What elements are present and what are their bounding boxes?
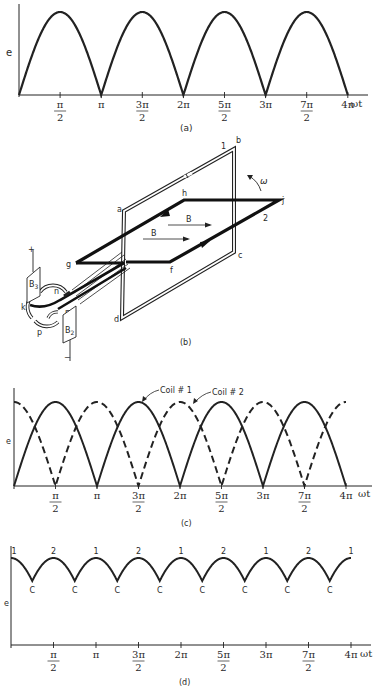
brush-b3 — [27, 250, 40, 303]
coil-2 — [76, 200, 279, 263]
coil-2-curve — [14, 402, 346, 486]
tick-label-denominator: 2 — [139, 112, 145, 123]
commutation-label: C — [327, 586, 333, 595]
label-coil-2: 2 — [263, 214, 268, 223]
x-ticks: π2π3π22π5π23π7π24π — [54, 92, 355, 123]
tick-label: 7π — [298, 490, 311, 501]
peak-label: 2 — [51, 547, 56, 556]
tick-label: 3π — [132, 490, 145, 501]
x-ticks: π2π3π22π5π23π7π24π — [50, 483, 353, 514]
panel-label: (c) — [181, 519, 192, 528]
figure: e π2π3π22π5π23π7π24π ωt (a) a b c d 1 h — [0, 0, 390, 698]
peak-label: 2 — [221, 547, 226, 556]
commutation-label: C — [29, 586, 35, 595]
x-ticks: π2π3π22π5π23π7π24π — [48, 642, 358, 673]
panel-a: e π2π3π22π5π23π7π24π ωt (a) — [6, 4, 368, 133]
tick-label: 7π — [302, 649, 315, 660]
tick-label: 3π — [257, 490, 270, 501]
field-label-b: B — [151, 229, 157, 238]
tick-label-denominator: 2 — [305, 662, 311, 673]
label-p: p — [37, 328, 42, 337]
commutation-label: C — [72, 586, 78, 595]
tick-label: 3π — [136, 99, 149, 110]
field-label-b: B — [186, 215, 192, 224]
tick-label: π — [94, 490, 101, 501]
peak-label: 1 — [178, 547, 183, 556]
tick-label: 5π — [217, 649, 230, 660]
peak-label: 2 — [306, 547, 311, 556]
x-axis-label: ωt — [358, 488, 370, 499]
tick-label: π — [57, 99, 64, 110]
tick-label-denominator: 2 — [218, 503, 224, 514]
tick-label-denominator: 2 — [135, 503, 141, 514]
tick-label: π — [93, 649, 100, 660]
y-axis-label: e — [6, 47, 12, 58]
figure-svg: e π2π3π22π5π23π7π24π ωt (a) a b c d 1 h — [0, 0, 390, 698]
panel-c: e π2π3π22π5π23π7π24π ωt Coil # 1 Coil # … — [6, 386, 372, 528]
panel-b-generator-diagram: a b c d 1 h j f g 2 B B ω — [21, 136, 284, 362]
label-b: b — [236, 136, 241, 145]
panel-d: e 1C2C1C2C1C2C1C2C1 π2π3π22π5π23π7π24π ω… — [4, 546, 372, 687]
tick-label: 3π — [132, 649, 145, 660]
peak-label: 1 — [348, 547, 353, 556]
tick-label-denominator: 2 — [52, 503, 58, 514]
panel-label: (a) — [180, 123, 193, 133]
commutation-label: C — [242, 586, 248, 595]
tick-label: 3π — [259, 99, 272, 110]
tick-label: 7π — [300, 99, 313, 110]
label-j: j — [281, 196, 284, 205]
legend-arrowhead-icon — [193, 398, 198, 404]
y-axis-label: e — [4, 599, 9, 608]
panel-label: (d) — [179, 678, 190, 687]
commutation-label: C — [114, 586, 120, 595]
tick-label: 2π — [177, 99, 190, 110]
label-h: h — [182, 189, 187, 198]
tick-label-denominator: 2 — [50, 662, 56, 673]
peak-label: 2 — [136, 547, 141, 556]
tick-label: π — [52, 490, 59, 501]
label-k: k — [21, 303, 26, 312]
label-d: d — [114, 315, 119, 324]
tick-label-denominator: 2 — [220, 662, 226, 673]
tick-label: 5π — [218, 99, 231, 110]
commutation-label: C — [199, 586, 205, 595]
tick-label: π — [50, 649, 57, 660]
tick-label-denominator: 2 — [57, 112, 63, 123]
legend-coil-1: Coil # 1 — [160, 386, 192, 395]
y-axis-label: e — [6, 437, 11, 446]
legend-coil-2: Coil # 2 — [212, 388, 244, 397]
peak-label: 1 — [93, 547, 98, 556]
tick-label-denominator: 2 — [135, 662, 141, 673]
tick-label: 3π — [260, 649, 273, 660]
label-coil-1: 1 — [221, 142, 226, 151]
tick-label: 5π — [215, 490, 228, 501]
tick-label: 4π — [345, 649, 358, 660]
peak-label: 1 — [11, 547, 16, 556]
tick-label: 2π — [175, 649, 188, 660]
commutation-label: C — [157, 586, 163, 595]
polarity-minus: − — [64, 353, 71, 362]
label-g: g — [66, 260, 71, 269]
polarity-plus: + — [28, 245, 35, 254]
coil-1-curve — [14, 402, 346, 486]
x-axis-label: ωt — [350, 98, 362, 109]
omega-label: ω — [260, 176, 268, 186]
label-a: a — [117, 205, 122, 214]
tick-label-denominator: 2 — [221, 112, 227, 123]
tick-label: 4π — [340, 490, 353, 501]
tick-label-denominator: 2 — [304, 112, 310, 123]
peak-trough-labels: 1C2C1C2C1C2C1C2C1 — [11, 547, 353, 595]
resultant-emf-curve — [11, 558, 351, 581]
tick-label: π — [98, 99, 105, 110]
panel-label: (b) — [180, 338, 191, 347]
coil-emf-curve — [19, 12, 348, 95]
tick-label: 2π — [174, 490, 187, 501]
label-n: n — [54, 287, 59, 296]
label-f: f — [170, 266, 173, 275]
label-c: c — [238, 251, 242, 260]
commutation-label: C — [284, 586, 290, 595]
peak-label: 1 — [263, 547, 268, 556]
x-axis-label: ωt — [360, 648, 372, 659]
tick-label-denominator: 2 — [301, 503, 307, 514]
